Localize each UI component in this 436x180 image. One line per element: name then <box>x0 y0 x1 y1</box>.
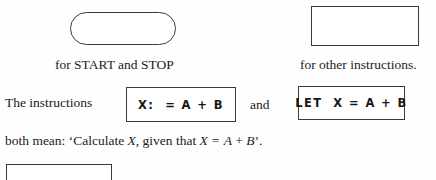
start-stop-symbol-shape <box>70 12 176 45</box>
start-stop-caption: for START and STOP <box>55 58 174 73</box>
meaning-var-x2: X <box>200 133 208 148</box>
instruction-box-assignment: X: = A + B <box>126 87 236 122</box>
document-page: for START and STOP for other instruction… <box>0 0 436 180</box>
meaning-var-a: A <box>224 133 232 148</box>
other-instructions-symbol-shape <box>311 6 419 46</box>
meaning-var-x1: X <box>128 133 136 148</box>
meaning-suffix: ’. <box>255 133 263 148</box>
other-instructions-caption: for other instructions. <box>300 58 417 73</box>
lead-in-text: The instructions <box>5 95 92 111</box>
instruction-box-assignment-text: X: = A + B <box>138 98 224 112</box>
meaning-var-b: B <box>246 133 254 148</box>
meaning-plus: + <box>232 133 246 148</box>
instruction-box-let-text: LET X = A + B <box>295 96 407 110</box>
partial-rectangle-shape <box>6 164 112 180</box>
instruction-box-let: LET X = A + B <box>298 86 405 120</box>
conjunction-text: and <box>250 97 270 113</box>
meaning-prefix: both mean: ‘Calculate <box>5 133 128 148</box>
meaning-equals: = <box>208 133 224 148</box>
meaning-sentence: both mean: ‘Calculate X, given that X = … <box>5 133 262 149</box>
meaning-middle: , given that <box>136 133 200 148</box>
